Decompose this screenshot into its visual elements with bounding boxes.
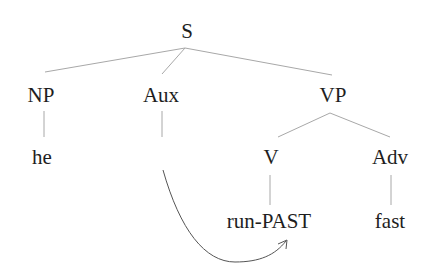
edge-vp-v [278, 113, 330, 137]
node-aux: Aux [143, 85, 179, 106]
node-adv: Adv [372, 147, 408, 168]
node-run-past: run-PAST [227, 211, 311, 232]
node-v: V [263, 147, 278, 168]
node-fast: fast [375, 211, 405, 232]
node-np: NP [28, 85, 55, 106]
edge-s-vp [185, 48, 332, 75]
node-vp: VP [320, 85, 347, 106]
edge-s-np [45, 48, 185, 72]
node-s: S [181, 21, 193, 42]
edge-s-aux [162, 48, 185, 74]
node-he: he [32, 147, 52, 168]
edge-vp-adv [330, 113, 390, 137]
tree-edges [0, 0, 434, 274]
syntax-tree-diagram: S NP Aux VP he V Adv run-PAST fast [0, 0, 434, 274]
